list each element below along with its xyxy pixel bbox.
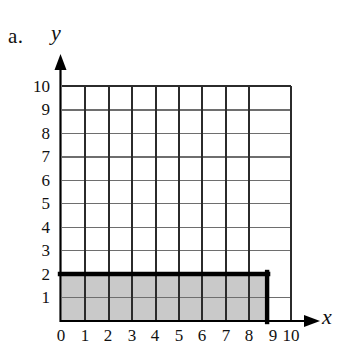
y-tick-label-4: 4	[20, 219, 50, 236]
y-tick-label-9: 9	[20, 101, 50, 118]
x-tick-label-1: 1	[73, 327, 97, 344]
y-tick-label-2: 2	[20, 266, 50, 283]
y-tick-label-5: 5	[20, 195, 50, 212]
grid-plot	[0, 0, 342, 355]
x-tick-label-4: 4	[143, 327, 167, 344]
y-tick-label-7: 7	[20, 148, 50, 165]
x-tick-label-3: 3	[120, 327, 144, 344]
y-tick-label-8: 8	[20, 125, 50, 142]
y-tick-label-10: 10	[20, 78, 50, 95]
x-tick-label-7: 7	[214, 327, 238, 344]
x-tick-label-8: 8	[237, 327, 261, 344]
x-tick-label-0: 0	[49, 327, 73, 344]
y-tick-label-6: 6	[20, 172, 50, 189]
horizontal-grid-lines	[62, 87, 291, 298]
x-tick-label-10: 10	[279, 327, 303, 344]
y-tick-label-3: 3	[20, 242, 50, 259]
x-tick-label-6: 6	[190, 327, 214, 344]
coordinate-grid-figure: a. y x	[0, 0, 342, 355]
x-tick-label-2: 2	[96, 327, 120, 344]
y-tick-label-1: 1	[20, 289, 50, 306]
x-tick-label-5: 5	[167, 327, 191, 344]
